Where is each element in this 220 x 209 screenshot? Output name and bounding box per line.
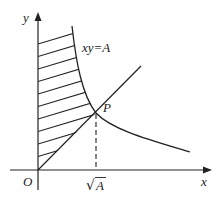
point-label: P — [102, 100, 111, 115]
hatch-line — [38, 139, 138, 169]
radicand-label: A — [95, 178, 104, 193]
y-axis-arrow-icon — [35, 12, 42, 21]
hatch-line — [38, 89, 138, 119]
hatch-line — [38, 127, 138, 157]
sqrt-a-tick-label: √ A — [86, 177, 106, 193]
x-axis-label: x — [200, 174, 207, 189]
line-y-equals-x — [38, 66, 141, 170]
hatch-line — [38, 52, 138, 82]
diagram-canvas: y x O xy=A P √ A — [0, 0, 220, 209]
radical-sign: √ — [86, 177, 95, 193]
hatch-line — [38, 77, 138, 107]
x-axis-arrow-icon — [203, 167, 212, 174]
curve-label: xy=A — [81, 40, 110, 55]
hatch-line — [38, 114, 138, 144]
hatch-line — [38, 102, 138, 132]
y-axis-label: y — [21, 10, 29, 25]
origin-label: O — [23, 174, 33, 189]
hatch-line — [38, 64, 138, 94]
